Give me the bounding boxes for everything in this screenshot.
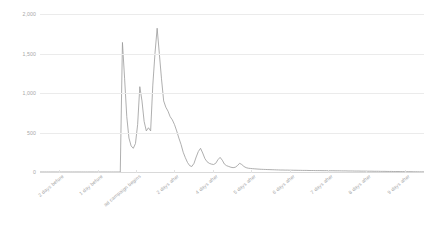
x-axis-tick-label: 2 days after (155, 173, 180, 195)
x-axis-tick-label: 4 days after (194, 173, 219, 195)
x-axis-tick-label: 1 day before (77, 173, 103, 196)
x-axis-tick-label: 8 days after (347, 173, 372, 195)
x-axis-tick-label: 5 days after (232, 173, 257, 195)
y-axis-tick-label: 0 (33, 169, 36, 175)
gridline (40, 93, 424, 94)
y-axis-tick-label: 500 (27, 130, 36, 136)
line-chart: 05001,0001,5002,000 2 days before1 day b… (0, 0, 437, 229)
gridline (40, 54, 424, 55)
x-axis-tick-label: 7 days after (309, 173, 334, 195)
x-axis-tick-label: 2 days before (37, 173, 65, 198)
x-axis-tick-label: ad campaign begins (102, 173, 142, 208)
x-axis-tick-label: 9 days after (386, 173, 411, 195)
y-axis-tick-label: 1,500 (23, 51, 36, 57)
gridline (40, 14, 424, 15)
plot-area: 05001,0001,5002,000 (40, 14, 424, 172)
y-axis-tick-label: 1,000 (23, 90, 36, 96)
data-line (40, 28, 424, 172)
x-axis-tick-labels: 2 days before1 day beforead campaign beg… (40, 173, 424, 229)
y-axis-tick-label: 2,000 (23, 11, 36, 17)
gridline (40, 133, 424, 134)
x-axis-tick-label: 6 days after (271, 173, 296, 195)
